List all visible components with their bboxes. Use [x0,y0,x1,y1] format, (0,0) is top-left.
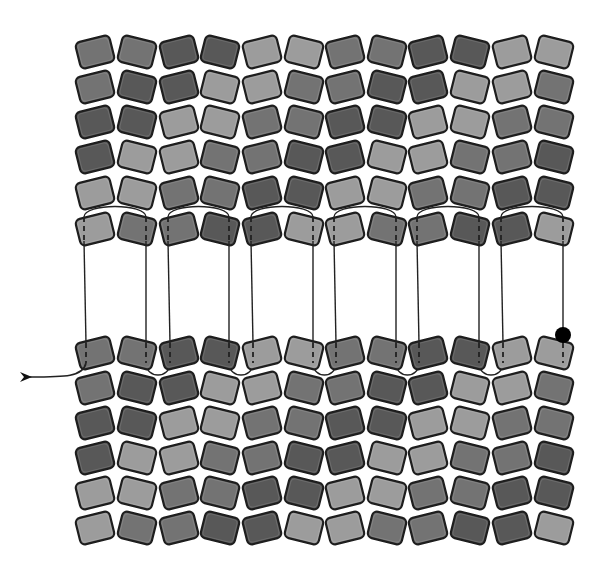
bead [117,35,157,70]
bead [492,105,532,140]
bead [492,336,532,371]
bead [159,336,199,371]
bead [325,70,365,105]
bead [367,176,407,211]
bead [284,176,324,211]
bead [75,511,115,546]
bead [367,511,407,546]
thread-start-dot [555,327,571,343]
bead [492,212,532,247]
bead [117,70,157,105]
bead [242,441,282,476]
bead [408,176,448,211]
bead [75,70,115,105]
bead [492,441,532,476]
bead [325,140,365,175]
bead [325,105,365,140]
bead [534,511,574,546]
bead [492,511,532,546]
bead [284,35,324,70]
bead [367,371,407,406]
bead [242,371,282,406]
bead [450,140,490,175]
bead [75,105,115,140]
bead [325,35,365,70]
bead [200,406,240,441]
bead [284,70,324,105]
bead [200,70,240,105]
bead [534,140,574,175]
bead [450,105,490,140]
bead [284,476,324,511]
bead [200,105,240,140]
bead [450,441,490,476]
bead [242,476,282,511]
bead [534,406,574,441]
bead [284,336,324,371]
bead [200,212,240,247]
bead [117,212,157,247]
bead [325,371,365,406]
bead [492,406,532,441]
bead [159,176,199,211]
bead [284,371,324,406]
bead [242,105,282,140]
bead [534,70,574,105]
bead [534,476,574,511]
bead [200,441,240,476]
bead [450,371,490,406]
bead [75,441,115,476]
bead [200,371,240,406]
bead [492,35,532,70]
bead [75,140,115,175]
bead [450,336,490,371]
bead [325,406,365,441]
bead [325,336,365,371]
bead [450,70,490,105]
bead [450,476,490,511]
bead [408,105,448,140]
bead [408,406,448,441]
thread-vertical [417,241,419,343]
bead [367,105,407,140]
thread-vertical [334,241,336,343]
bead [492,140,532,175]
bead [200,35,240,70]
bead [367,476,407,511]
bead [242,70,282,105]
bead [325,476,365,511]
bead [492,70,532,105]
bead [492,371,532,406]
bead [75,336,115,371]
bead [284,406,324,441]
bead [242,176,282,211]
bead [75,371,115,406]
bead [408,511,448,546]
bead [325,441,365,476]
bead [200,476,240,511]
bead [284,140,324,175]
bead [159,476,199,511]
bead [75,176,115,211]
bead [367,441,407,476]
bead [200,140,240,175]
bead [159,105,199,140]
bead [367,140,407,175]
bead [200,176,240,211]
bead [325,176,365,211]
bead [242,212,282,247]
bead [242,406,282,441]
bead [492,176,532,211]
bead [534,441,574,476]
bead [117,176,157,211]
thread-vertical [168,241,170,343]
bead [117,406,157,441]
bead [284,511,324,546]
thread-vertical [501,241,503,343]
bead [117,511,157,546]
bead [450,212,490,247]
bead [408,35,448,70]
bead [159,35,199,70]
bead [75,35,115,70]
beads-layer [75,35,574,546]
